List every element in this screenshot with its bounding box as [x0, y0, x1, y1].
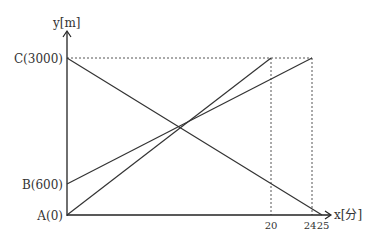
x-axis-label: x[分]	[334, 208, 362, 222]
label-c: C(3000)	[14, 52, 63, 66]
tick-25: 25	[317, 220, 330, 231]
distance-time-diagram: y[m] C(3000) B(600) A(0) x[分] 20 24 25	[0, 0, 380, 237]
line-c-descending	[67, 58, 322, 215]
tick-20: 20	[265, 220, 278, 231]
label-a: A(0)	[36, 209, 63, 223]
label-b: B(600)	[22, 178, 63, 192]
tick-24: 24	[304, 220, 317, 231]
y-axis-label: y[m]	[52, 16, 81, 30]
line-a-ascending	[67, 58, 271, 215]
line-b-ascending	[67, 58, 312, 184]
